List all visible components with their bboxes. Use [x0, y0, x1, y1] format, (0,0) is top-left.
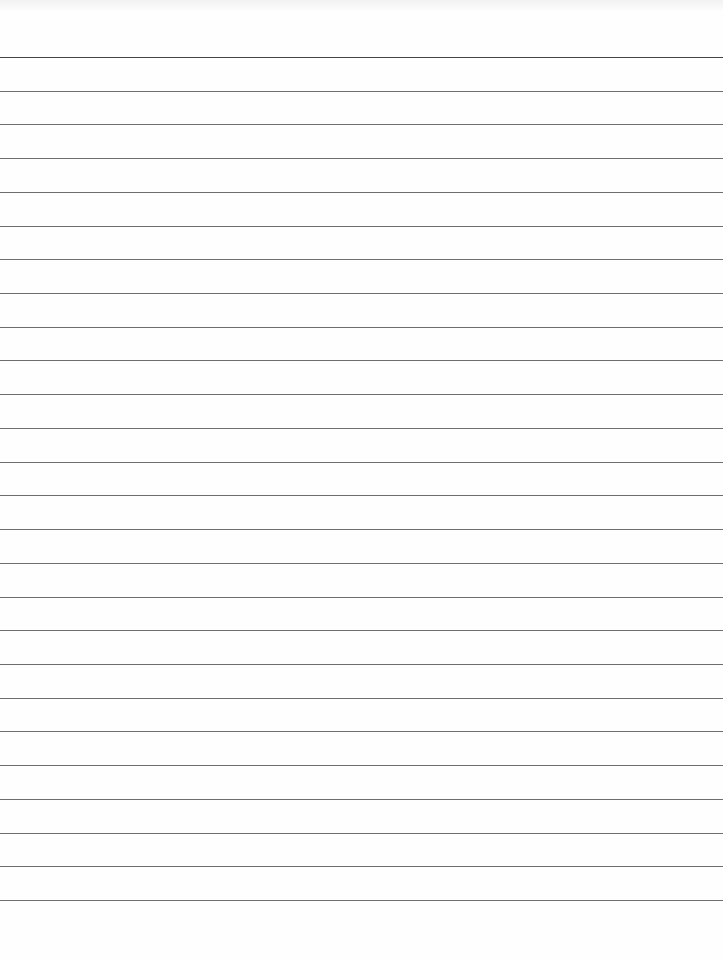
ruled-line — [0, 630, 723, 631]
ruled-line — [0, 529, 723, 530]
ruled-line — [0, 597, 723, 598]
ruled-line — [0, 91, 723, 92]
ruled-line — [0, 293, 723, 294]
ruled-line — [0, 900, 723, 901]
ruled-line — [0, 259, 723, 260]
ruled-line — [0, 698, 723, 699]
ruled-line — [0, 495, 723, 496]
ruled-line — [0, 360, 723, 361]
ruled-line — [0, 799, 723, 800]
ruled-line — [0, 833, 723, 834]
ruled-line — [0, 731, 723, 732]
ruled-line — [0, 192, 723, 193]
ruled-line — [0, 765, 723, 766]
ruled-line — [0, 57, 723, 58]
ruled-line — [0, 327, 723, 328]
ruled-line — [0, 158, 723, 159]
ruled-line — [0, 664, 723, 665]
ruled-line — [0, 226, 723, 227]
ruled-line — [0, 462, 723, 463]
ruled-line — [0, 866, 723, 867]
ruled-line — [0, 394, 723, 395]
ruled-line — [0, 124, 723, 125]
ruled-line — [0, 428, 723, 429]
top-edge-bleed-through — [0, 0, 723, 12]
ruled-paper-page — [0, 0, 723, 961]
ruled-line — [0, 563, 723, 564]
